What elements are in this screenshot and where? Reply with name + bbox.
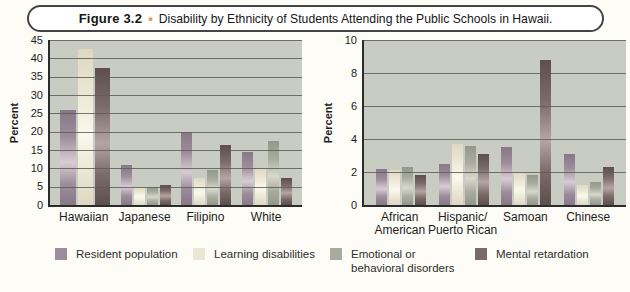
y-tick-label: 30	[31, 90, 43, 101]
gridline	[50, 113, 302, 114]
bar	[590, 182, 601, 205]
bar	[78, 49, 93, 205]
left-bar-groups	[50, 40, 302, 205]
gridline	[364, 73, 626, 74]
legend-swatch	[193, 248, 205, 260]
right-bar-groups	[364, 40, 626, 205]
gridline	[50, 150, 302, 151]
legend-label: Mental retardation	[496, 247, 589, 261]
x-category-label-line: Chinese	[566, 211, 610, 224]
bar	[452, 144, 463, 205]
legend-swatch	[55, 248, 67, 260]
right-y-ticks: 0246810	[336, 40, 362, 205]
right-plot-area	[362, 40, 626, 207]
left-chart-main: HawaiianJapaneseFilipinoWhite	[48, 40, 302, 224]
bar	[527, 175, 538, 205]
y-tick-label: 10	[31, 163, 43, 174]
y-tick-label: 5	[37, 181, 43, 192]
y-tick-label: 35	[31, 71, 43, 82]
bar	[465, 146, 476, 205]
y-tick-label: 15	[31, 145, 43, 156]
x-category-label: White	[241, 211, 291, 224]
bar	[478, 154, 489, 205]
x-category-label-line: Samoan	[503, 211, 548, 224]
y-tick-label: 45	[31, 35, 43, 46]
legend-swatch	[330, 248, 342, 260]
legend-item: Emotional or behavioral disorders	[330, 247, 469, 276]
x-category-label: Samoan	[500, 211, 550, 238]
gridline	[364, 40, 626, 41]
x-category-label: Filipino	[180, 211, 230, 224]
bar-group	[60, 49, 110, 205]
left-plot-area	[48, 40, 302, 207]
legend-label: Emotional or behavioral disorders	[351, 247, 469, 276]
figure-title: Disability by Ethnicity of Students Atte…	[159, 12, 553, 26]
bar	[564, 154, 575, 205]
legend-item: Learning disabilities	[193, 247, 315, 261]
x-category-label: Hawaiian	[59, 211, 109, 224]
x-category-label: AfricanAmerican	[375, 211, 425, 238]
x-category-label-line: Hispanic/	[438, 211, 487, 224]
legend-label: Resident population	[76, 247, 178, 261]
x-category-label-line: American	[374, 224, 425, 237]
y-tick-label: 0	[37, 200, 43, 211]
y-tick-label: 20	[31, 126, 43, 137]
bar	[60, 110, 75, 205]
legend-item: Resident population	[55, 247, 178, 261]
left-x-category-labels: HawaiianJapaneseFilipinoWhite	[48, 211, 302, 224]
left-y-ticks: 051015202530354045	[22, 40, 48, 205]
y-tick-label: 10	[345, 35, 357, 46]
gridline	[50, 77, 302, 78]
x-category-label-line: White	[251, 211, 282, 224]
right-y-axis: Percent	[320, 40, 336, 205]
gridline	[50, 168, 302, 169]
bar	[376, 169, 387, 205]
right-x-category-labels: AfricanAmericanHispanic/Puerto RicanSamo…	[362, 211, 626, 238]
right-chart: Percent 0246810 AfricanAmericanHispanic/…	[320, 40, 626, 238]
gridline	[50, 187, 302, 188]
legend-swatch	[475, 248, 487, 260]
bar	[194, 178, 205, 206]
bar	[281, 178, 292, 206]
x-category-label-line: Hawaiian	[59, 211, 108, 224]
bullet-icon: •	[148, 11, 153, 26]
figure-label: Figure 3.2	[79, 11, 142, 26]
bar	[160, 185, 171, 205]
y-tick-label: 6	[351, 101, 357, 112]
bar	[439, 164, 450, 205]
x-category-label: Chinese	[563, 211, 613, 238]
bar-group	[439, 144, 489, 205]
y-tick-label: 4	[351, 134, 357, 145]
x-category-label-line: Puerto Rican	[428, 224, 497, 237]
bar	[147, 187, 158, 205]
bar	[540, 60, 551, 205]
legend: Resident populationLearning disabilities…	[0, 247, 630, 287]
figure-title-box: Figure 3.2 • Disability by Ethnicity of …	[27, 5, 604, 32]
y-tick-label: 40	[31, 53, 43, 64]
gridline	[50, 132, 302, 133]
bar-group	[121, 165, 171, 205]
bar	[134, 187, 145, 205]
legend-item: Mental retardation	[475, 247, 589, 261]
y-tick-label: 2	[351, 167, 357, 178]
bar	[389, 170, 400, 205]
y-tick-label: 8	[351, 68, 357, 79]
x-category-label: Japanese	[120, 211, 170, 224]
y-tick-label: 25	[31, 108, 43, 119]
left-chart: Percent 051015202530354045 HawaiianJapan…	[6, 40, 302, 238]
bar	[501, 147, 512, 205]
gridline	[50, 40, 302, 41]
x-category-label-line: Filipino	[186, 211, 224, 224]
bar	[415, 175, 426, 205]
right-chart-main: AfricanAmericanHispanic/Puerto RicanSamo…	[362, 40, 626, 238]
charts-row: Percent 051015202530354045 HawaiianJapan…	[6, 40, 626, 238]
bar	[577, 185, 588, 205]
bar	[514, 172, 525, 205]
gridline	[364, 139, 626, 140]
bar-group	[564, 154, 614, 205]
bar	[95, 68, 110, 206]
gridline	[50, 95, 302, 96]
left-y-axis: Percent	[6, 40, 22, 205]
x-category-label-line: Japanese	[119, 211, 171, 224]
gridline	[50, 58, 302, 59]
